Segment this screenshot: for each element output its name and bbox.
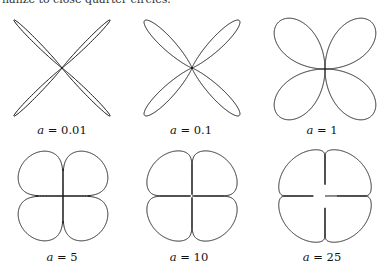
petal-curve-figure	[0, 0, 386, 277]
label-value: = 10	[177, 250, 209, 264]
label-value: = 5	[53, 250, 77, 264]
label-variable: a	[303, 250, 310, 264]
label-value: = 1	[313, 123, 337, 137]
label-value: = 0.01	[44, 123, 87, 137]
petal-curve	[274, 18, 376, 120]
label-value: = 25	[310, 250, 342, 264]
petal-curve	[144, 20, 240, 116]
panel-label: a = 0.01	[37, 123, 86, 137]
petal-curve	[147, 151, 237, 241]
panel-label: a = 10	[170, 250, 208, 264]
panel-label: a = 1	[306, 123, 337, 137]
label-variable: a	[46, 250, 53, 264]
label-variable: a	[170, 123, 177, 137]
label-value: = 0.1	[177, 123, 212, 137]
panel-label: a = 5	[46, 250, 77, 264]
petal-curve	[279, 150, 372, 243]
label-variable: a	[170, 250, 177, 264]
petal-curve	[14, 20, 110, 116]
label-variable: a	[37, 123, 44, 137]
panel-label: a = 25	[303, 250, 341, 264]
label-variable: a	[306, 123, 313, 137]
panel-label: a = 0.1	[170, 123, 212, 137]
petal-curve	[18, 151, 108, 241]
